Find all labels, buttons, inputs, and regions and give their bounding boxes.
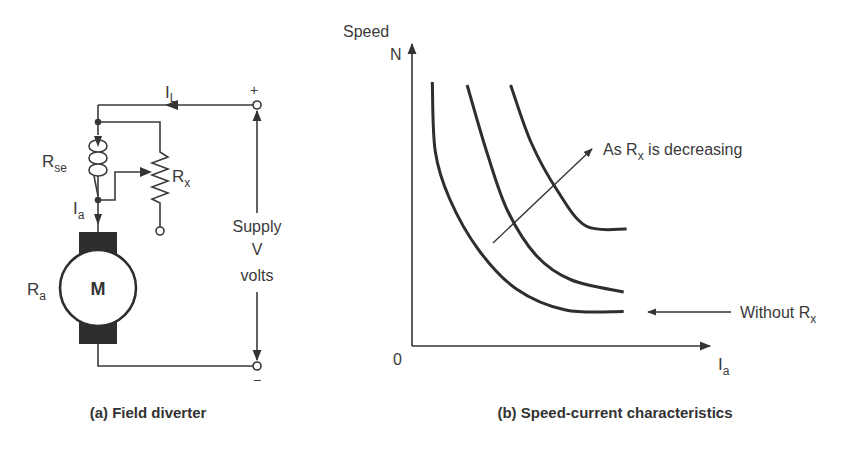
annotation-without-rx: Without Rx [740,304,816,326]
curve-rx-higher [467,85,624,292]
label-rse: Rse [42,152,67,175]
label-ra: Ra [27,280,46,303]
label-ia: Ia [73,199,85,222]
speed-current-chart: Speed N 0 Ia As Rx is decreasing Without… [343,23,816,421]
label-plus: + [250,82,258,98]
armature-current-arrow-icon [94,214,102,225]
y-axis-label-n: N [390,46,402,63]
rx-terminal [156,227,164,235]
label-supply: Supply [233,218,282,235]
origin-label: 0 [393,351,402,368]
label-il: IL [165,83,177,105]
caption-b: (b) Speed-current characteristics [497,404,732,421]
plus-terminal [253,101,261,109]
field-diverter-circuit [60,100,261,370]
curve-without-rx [432,82,623,312]
caption-a: (a) Field diverter [90,404,207,421]
bottom-wire [98,344,253,366]
curve-group [432,82,626,312]
x-axis-label: Ia [718,355,730,378]
label-v: V [252,241,263,258]
motor-label: M [91,279,106,299]
wiper-arrow-icon [140,167,152,177]
diagram-canvas: IL + Rse Rx Ia Ra M Supply V volts − (a)… [0,0,850,450]
label-minus: − [253,372,261,388]
label-volts: volts [241,267,274,284]
diverter-resistor-rx [152,150,168,227]
label-rx: Rx [172,167,190,190]
annotation-decreasing: As Rx is decreasing [603,141,742,163]
field-current-arrow-icon [94,136,102,147]
y-axis-label-speed: Speed [343,23,389,40]
minus-terminal [253,362,261,370]
field-diverter-labels: IL + Rse Rx Ia Ra M Supply V volts − (a)… [27,82,281,421]
